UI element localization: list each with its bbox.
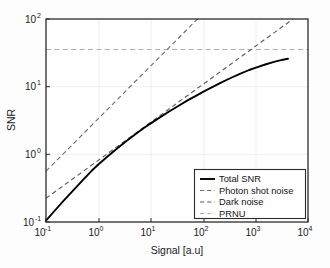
legend: Total SNR Photon shot noise Dark noise P… [195,170,306,219]
x-tick-label: 10 [193,227,205,238]
x-tick-exponent: 3 [257,225,261,232]
snr-figure: 10 -1 10 0 10 1 10 2 10 3 10 4 10 2 10 1… [0,0,330,268]
x-tick-label: 10 [88,227,100,238]
y-tick-exponent: 2 [37,12,41,19]
chart-canvas: 10 -1 10 0 10 1 10 2 10 3 10 4 10 2 10 1… [0,0,330,268]
y-tick-exponent: 1 [37,79,41,86]
legend-label-dark-noise: Dark noise [219,197,263,207]
y-axis-title: SNR [5,108,17,131]
x-tick-exponent: 0 [100,225,104,232]
x-axis-title: Signal [a.u] [151,244,204,256]
y-tick-labels: 10 2 10 1 10 0 10 -1 [23,12,41,228]
x-tick-exponent: 1 [152,225,156,232]
x-tick-label: 10 [245,227,257,238]
legend-label-prnu: PRNU [219,209,245,219]
x-tick-exponent: -1 [45,225,51,232]
y-tick-label: 10 [25,149,37,160]
x-tick-label: 10 [140,227,152,238]
y-tick-exponent: -1 [35,215,41,222]
x-tick-exponent: 2 [205,225,209,232]
legend-label-total-snr: Total SNR [219,174,261,184]
y-tick-label: 10 [23,217,35,228]
y-tick-exponent: 0 [37,147,41,154]
x-tick-label: 10 [297,227,309,238]
x-tick-labels: 10 -1 10 0 10 1 10 2 10 3 10 4 [34,225,312,238]
y-tick-label: 10 [25,14,37,25]
x-tick-exponent: 4 [309,225,313,232]
y-tick-label: 10 [25,81,37,92]
legend-label-photon-shot-noise: Photon shot noise [219,186,293,196]
